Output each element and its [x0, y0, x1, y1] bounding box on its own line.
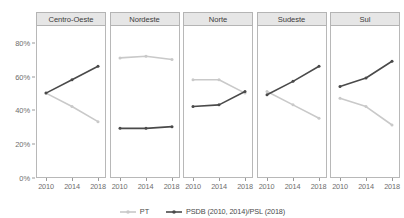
- y-axis-tick-label: 80%: [15, 38, 30, 47]
- chart-panel: Norte201020142018: [183, 12, 253, 196]
- data-point: [45, 92, 48, 95]
- x-axis-tick-label: 2018: [237, 182, 253, 191]
- series-line: [193, 80, 245, 93]
- x-axis-tick-mark: [392, 178, 393, 181]
- legend-item: PSDB (2010, 2014)/PSL (2018): [165, 207, 285, 216]
- x-axis-tick-mark: [245, 178, 246, 181]
- y-axis-tick-mark: [32, 178, 35, 179]
- y-axis-tick-mark: [32, 76, 35, 77]
- chart-panel: Sudeste201020142018: [257, 12, 327, 196]
- plot-area: [36, 26, 106, 178]
- y-axis-tick-mark: [32, 110, 35, 111]
- x-axis-tick-mark: [293, 178, 294, 181]
- data-point: [265, 93, 268, 96]
- chart-legend: PTPSDB (2010, 2014)/PSL (2018): [0, 207, 404, 216]
- data-point: [339, 97, 342, 100]
- x-axis-tick-label: 2010: [38, 182, 54, 191]
- x-axis-tick-mark: [340, 178, 341, 181]
- x-axis-tick-label: 2010: [332, 182, 348, 191]
- series-line: [340, 98, 392, 125]
- panel-strip: Centro-Oeste201020142018Nordeste20102014…: [36, 12, 402, 218]
- y-axis-tick-label: 40%: [15, 106, 30, 115]
- y-axis-tick-label: 20%: [15, 140, 30, 149]
- x-axis-tick-label: 2010: [185, 182, 201, 191]
- legend-label: PT: [140, 207, 149, 216]
- x-axis-tick-mark: [46, 178, 47, 181]
- data-point: [244, 90, 247, 93]
- panel-title: Sul: [330, 12, 400, 26]
- data-point: [218, 103, 221, 106]
- data-point: [170, 58, 173, 61]
- x-axis-tick-label: 2018: [384, 182, 400, 191]
- y-axis-tick-mark: [32, 42, 35, 43]
- x-axis-tick-mark: [72, 178, 73, 181]
- data-point: [317, 117, 320, 120]
- x-axis-tick-label: 2018: [164, 182, 180, 191]
- data-point: [71, 105, 74, 108]
- data-point: [265, 90, 268, 93]
- x-axis-tick-label: 2014: [211, 182, 227, 191]
- data-point: [71, 78, 74, 81]
- x-axis-tick-label: 2010: [112, 182, 128, 191]
- x-axis-tick-mark: [172, 178, 173, 181]
- x-axis-tick-label: 2018: [90, 182, 106, 191]
- plot-area: [110, 26, 180, 178]
- data-point: [144, 55, 147, 58]
- data-point: [170, 125, 173, 128]
- legend-symbol: [165, 208, 183, 216]
- x-axis-tick-label: 2014: [138, 182, 154, 191]
- data-point: [97, 65, 100, 68]
- plot-area: [183, 26, 253, 178]
- y-axis: 0%20%40%60%80%: [0, 0, 38, 218]
- panel-title: Centro-Oeste: [36, 12, 106, 26]
- x-axis-tick-label: 2018: [311, 182, 327, 191]
- legend-label: PSDB (2010, 2014)/PSL (2018): [186, 207, 285, 216]
- series-line: [340, 61, 392, 86]
- x-axis: 201020142018: [257, 178, 327, 196]
- data-point: [291, 103, 294, 106]
- data-point: [339, 85, 342, 88]
- plot-area: [257, 26, 327, 178]
- data-point: [144, 127, 147, 130]
- x-axis-tick-label: 2014: [64, 182, 80, 191]
- x-axis-tick-mark: [146, 178, 147, 181]
- x-axis-tick-mark: [98, 178, 99, 181]
- data-point: [118, 56, 121, 59]
- data-point: [365, 77, 368, 80]
- x-axis: 201020142018: [183, 178, 253, 196]
- data-point: [218, 78, 221, 81]
- y-axis-tick-mark: [32, 144, 35, 145]
- legend-symbol: [119, 208, 137, 216]
- y-axis-tick-label: 60%: [15, 72, 30, 81]
- x-axis-tick-mark: [219, 178, 220, 181]
- data-point: [391, 123, 394, 126]
- data-point: [97, 120, 100, 123]
- chart-panel: Sul201020142018: [330, 12, 400, 196]
- legend-item: PT: [119, 207, 149, 216]
- data-point: [192, 105, 195, 108]
- chart-panel: Nordeste201020142018: [110, 12, 180, 196]
- data-point: [317, 65, 320, 68]
- y-axis-tick-label: 0%: [19, 174, 30, 183]
- data-point: [118, 127, 121, 130]
- x-axis-tick-label: 2014: [285, 182, 301, 191]
- x-axis-tick-mark: [120, 178, 121, 181]
- x-axis: 201020142018: [330, 178, 400, 196]
- data-point: [192, 78, 195, 81]
- x-axis-tick-mark: [366, 178, 367, 181]
- data-point: [291, 80, 294, 83]
- x-axis-tick-mark: [267, 178, 268, 181]
- panel-title: Sudeste: [257, 12, 327, 26]
- x-axis: 201020142018: [110, 178, 180, 196]
- panel-title: Nordeste: [110, 12, 180, 26]
- panel-title: Norte: [183, 12, 253, 26]
- x-axis: 201020142018: [36, 178, 106, 196]
- chart-root: 0%20%40%60%80% Centro-Oeste201020142018N…: [0, 0, 404, 218]
- x-axis-tick-mark: [319, 178, 320, 181]
- data-point: [391, 60, 394, 63]
- x-axis-tick-label: 2010: [259, 182, 275, 191]
- plot-area: [330, 26, 400, 178]
- chart-panel: Centro-Oeste201020142018: [36, 12, 106, 196]
- x-axis-tick-label: 2014: [358, 182, 374, 191]
- data-point: [365, 105, 368, 108]
